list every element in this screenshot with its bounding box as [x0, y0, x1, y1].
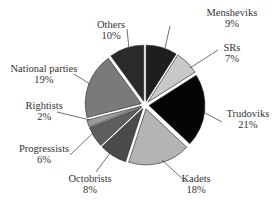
label-name: Progressists: [19, 143, 69, 154]
leader-line: [96, 153, 110, 172]
label-name: Trudoviks: [227, 108, 270, 119]
label-percent: 2%: [26, 111, 63, 122]
leader-line: [165, 26, 170, 48]
label-percent: 18%: [182, 184, 211, 195]
label-percent: 10%: [97, 30, 125, 41]
label-trudoviks: Trudoviks21%: [227, 108, 270, 130]
leader-line: [190, 50, 218, 68]
label-name: SRs: [224, 42, 241, 53]
label-rightists: Rightists2%: [26, 100, 63, 122]
label-others: Others10%: [97, 19, 125, 41]
label-percent: 8%: [69, 184, 112, 195]
label-octobrists: Octobrists8%: [69, 173, 112, 195]
label-name: Octobrists: [69, 173, 112, 184]
label-percent: 21%: [227, 119, 270, 130]
label-name: National parties: [11, 63, 78, 74]
label-percent: 6%: [19, 154, 69, 165]
label-name: Rightists: [26, 100, 63, 111]
label-name: Kadets: [182, 173, 211, 184]
leader-line: [127, 29, 129, 49]
label-name: Mensheviks: [207, 7, 258, 18]
label-kadets: Kadets18%: [182, 173, 211, 195]
label-srs: SRs7%: [224, 42, 241, 64]
label-mensheviks: Mensheviks9%: [207, 7, 258, 29]
label-name: Others: [97, 19, 125, 30]
leader-line: [70, 133, 93, 155]
pie-slices: [85, 45, 205, 165]
label-percent: 19%: [11, 74, 78, 85]
label-national-parties: National parties19%: [11, 63, 78, 85]
leader-line: [203, 112, 222, 122]
label-percent: 7%: [224, 53, 241, 64]
label-percent: 9%: [207, 18, 258, 29]
label-progressists: Progressists6%: [19, 143, 69, 165]
